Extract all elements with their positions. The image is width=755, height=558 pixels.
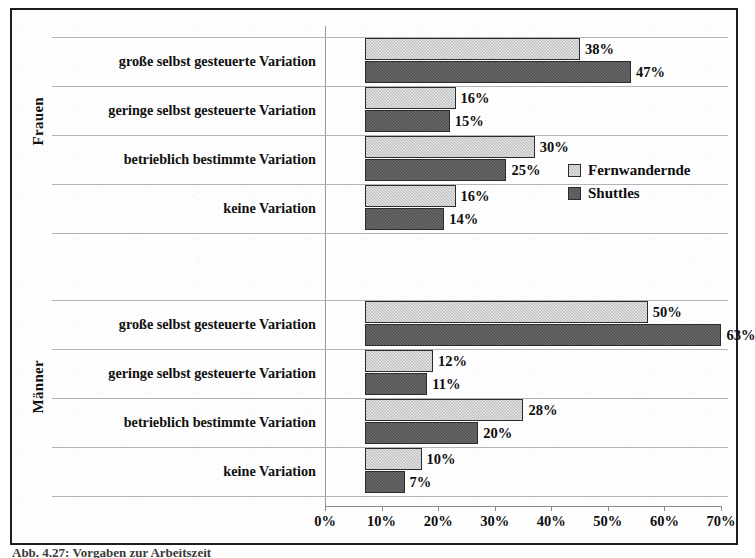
- category-separator: [52, 233, 728, 234]
- figure-caption: Abb. 4.27: Vorgaben zur Arbeitszeit: [12, 549, 211, 558]
- bar-value-label: 30%: [540, 136, 569, 158]
- x-axis-tick: [551, 506, 552, 511]
- x-axis-tick-label: 70%: [691, 513, 751, 530]
- x-axis-tick: [664, 506, 665, 511]
- x-axis-tick: [721, 506, 722, 511]
- group-axis-title-frauen: Frauen: [30, 97, 52, 145]
- category-label: betrieblich bestimmte Variation: [52, 135, 325, 184]
- legend-swatch-icon: [568, 187, 581, 200]
- bar-shuttles: [365, 324, 721, 346]
- chart-category-row: geringe selbst gesteuerte Variation16%15…: [52, 86, 728, 135]
- bar-shuttles: [365, 159, 506, 181]
- bar-value-label: 28%: [528, 399, 557, 421]
- bar-shuttles: [365, 373, 427, 395]
- x-axis-tick-label: 60%: [634, 513, 694, 530]
- bar-fernwandernde: [365, 301, 648, 323]
- bar-value-label: 50%: [653, 301, 682, 323]
- x-axis-tick-label: 10%: [352, 513, 412, 530]
- bar-shuttles: [365, 61, 631, 83]
- category-label: große selbst gesteuerte Variation: [52, 37, 325, 86]
- chart-group-männer: Männergroße selbst gesteuerte Variation5…: [12, 289, 736, 506]
- bar-shuttles: [365, 208, 444, 230]
- plot-area: Frauengroße selbst gesteuerte Variation3…: [12, 10, 736, 543]
- figure-caption-strip: Abb. 4.27: Vorgaben zur Arbeitszeit: [12, 549, 738, 558]
- chart-category-row: keine Variation10%7%: [52, 447, 728, 496]
- bar-value-label: 25%: [511, 159, 540, 181]
- x-axis-tick-label: 40%: [521, 513, 581, 530]
- chart-category-row: betrieblich bestimmte Variation28%20%: [52, 398, 728, 447]
- category-label: betrieblich bestimmte Variation: [52, 398, 325, 447]
- x-axis-tick-label: 50%: [578, 513, 638, 530]
- category-label: große selbst gesteuerte Variation: [52, 300, 325, 349]
- bar-value-label: 16%: [461, 87, 490, 109]
- x-axis-tick: [438, 506, 439, 511]
- x-axis-tick: [382, 506, 383, 511]
- chart-group-frauen: Frauengroße selbst gesteuerte Variation3…: [12, 26, 736, 243]
- bar-value-label: 14%: [449, 208, 478, 230]
- bar-shuttles: [365, 471, 405, 493]
- category-label: keine Variation: [52, 184, 325, 233]
- chart-category-row: große selbst gesteuerte Variation50%63%: [52, 300, 728, 349]
- bar-fernwandernde: [365, 136, 535, 158]
- value-axis-line: [325, 506, 721, 507]
- chart-category-row: geringe selbst gesteuerte Variation12%11…: [52, 349, 728, 398]
- group-axis-title-männer: Männer: [30, 360, 52, 413]
- x-axis-tick: [495, 506, 496, 511]
- bar-shuttles: [365, 110, 450, 132]
- bar-value-label: 16%: [461, 185, 490, 207]
- x-axis-tick: [608, 506, 609, 511]
- bar-shuttles: [365, 422, 478, 444]
- chart-frame: Frauengroße selbst gesteuerte Variation3…: [10, 8, 738, 545]
- bar-value-label: 15%: [455, 110, 484, 132]
- chart-legend: FernwanderndeShuttles: [568, 162, 738, 208]
- legend-entry: Fernwandernde: [568, 162, 738, 179]
- legend-entry: Shuttles: [568, 185, 738, 202]
- x-axis-tick: [325, 506, 326, 511]
- category-label: geringe selbst gesteuerte Variation: [52, 349, 325, 398]
- bar-value-label: 12%: [438, 350, 467, 372]
- legend-swatch-icon: [568, 164, 581, 177]
- category-label: keine Variation: [52, 447, 325, 496]
- bar-value-label: 11%: [432, 373, 460, 395]
- bar-value-label: 10%: [427, 448, 456, 470]
- category-label: geringe selbst gesteuerte Variation: [52, 86, 325, 135]
- chart-category-row: große selbst gesteuerte Variation38%47%: [52, 37, 728, 86]
- bar-fernwandernde: [365, 87, 456, 109]
- bar-value-label: 7%: [410, 471, 432, 493]
- legend-label: Fernwandernde: [588, 162, 691, 179]
- bar-fernwandernde: [365, 38, 580, 60]
- bar-value-label: 38%: [585, 38, 614, 60]
- bar-fernwandernde: [365, 399, 523, 421]
- bar-value-label: 63%: [726, 324, 755, 346]
- bar-fernwandernde: [365, 350, 433, 372]
- bar-fernwandernde: [365, 448, 422, 470]
- x-axis-tick-label: 20%: [408, 513, 468, 530]
- category-separator: [52, 496, 728, 497]
- bar-value-label: 47%: [636, 61, 665, 83]
- bar-fernwandernde: [365, 185, 456, 207]
- bar-value-label: 20%: [483, 422, 512, 444]
- legend-label: Shuttles: [588, 185, 640, 202]
- x-axis-tick-label: 0%: [295, 513, 355, 530]
- x-axis-tick-label: 30%: [465, 513, 525, 530]
